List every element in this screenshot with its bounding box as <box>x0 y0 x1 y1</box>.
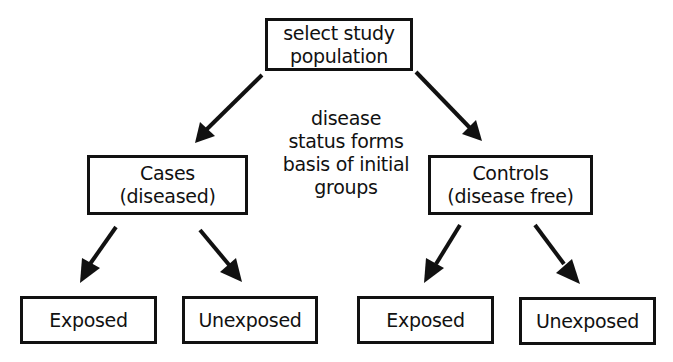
cases-box: Cases (diseased) <box>87 155 248 215</box>
cases-title: Cases <box>140 162 195 185</box>
controls-title: Controls <box>472 162 548 185</box>
cases-unexposed-box: Unexposed <box>182 296 318 344</box>
arrow-cases-to-exposed <box>80 227 116 283</box>
annotation-line-1: disease <box>276 107 416 130</box>
annotation-line-4: groups <box>276 176 416 199</box>
annotation-line-3: basis of initial <box>276 153 416 176</box>
cases-subtitle: (diseased) <box>119 185 215 208</box>
study-population-line-2: population <box>290 45 388 68</box>
controls-exposed-box: Exposed <box>357 296 494 344</box>
controls-unexposed-box: Unexposed <box>519 297 656 345</box>
cases-unexposed-label: Unexposed <box>198 309 301 332</box>
arrow-controls-to-exposed <box>424 225 460 283</box>
controls-unexposed-label: Unexposed <box>536 310 639 333</box>
arrow-controls-to-unexposed <box>535 225 580 284</box>
controls-exposed-label: Exposed <box>386 309 464 332</box>
controls-box: Controls (disease free) <box>428 155 593 215</box>
arrow-root-to-controls <box>416 72 482 141</box>
arrow-cases-to-unexposed <box>200 230 242 282</box>
cases-exposed-label: Exposed <box>49 309 127 332</box>
cases-exposed-box: Exposed <box>20 296 157 344</box>
controls-subtitle: (disease free) <box>447 185 573 208</box>
annotation-line-2: status forms <box>276 130 416 153</box>
study-population-line-1: select study <box>283 22 395 45</box>
study-population-box: select study population <box>265 18 413 71</box>
disease-status-annotation: disease status forms basis of initial gr… <box>276 107 416 199</box>
arrow-root-to-cases <box>195 75 262 143</box>
